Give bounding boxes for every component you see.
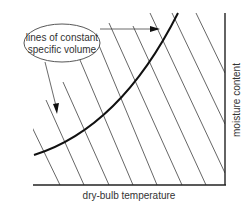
volume-line-4 (80, 60, 133, 185)
callout-label-line-2: specific volume (24, 44, 100, 56)
volume-line-7 (133, 26, 206, 185)
callout-label: lines of constant specific volume (24, 32, 100, 56)
volume-line-8 (150, 13, 225, 173)
callout-arrow-down (45, 62, 56, 106)
volume-line-3 (63, 82, 109, 185)
volume-line-6 (109, 23, 182, 185)
volume-line-9 (172, 13, 225, 124)
callout-label-line-1: lines of constant (24, 32, 100, 44)
arrowhead-down-icon (53, 103, 59, 114)
y-axis-label: moisture content (231, 63, 242, 137)
volume-line-10 (196, 13, 225, 73)
x-axis-label: dry-bulb temperature (33, 190, 225, 201)
